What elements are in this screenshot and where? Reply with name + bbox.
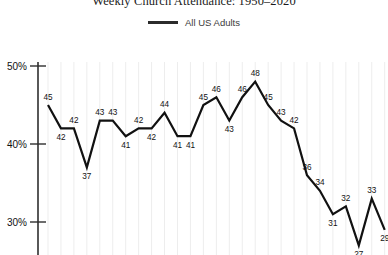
data-point-label: 36	[302, 163, 312, 172]
data-point-label: 45	[43, 93, 53, 102]
data-point-label: 32	[341, 194, 351, 203]
data-point-label: 43	[225, 125, 235, 134]
data-point-label: 34	[315, 178, 325, 187]
data-point-label: 45	[199, 93, 209, 102]
data-point-label: 29	[380, 234, 388, 243]
data-point-label: 43	[108, 108, 118, 117]
data-point-label: 31	[328, 219, 338, 228]
data-point-label: 41	[173, 141, 183, 150]
data-point-label: 42	[147, 133, 157, 142]
y-axis-tick-label: 40%	[7, 139, 27, 150]
data-point-label: 43	[277, 108, 287, 117]
data-point-label: 27	[354, 250, 364, 255]
data-point-label: 42	[289, 116, 299, 125]
data-point-label: 42	[134, 116, 144, 125]
data-point-label: 43	[95, 108, 105, 117]
data-point-label: 46	[238, 85, 248, 94]
data-point-label: 44	[160, 100, 170, 109]
chart-container: Weekly Church Attendance: 1950–2020 All …	[0, 0, 388, 255]
data-point-label: 41	[186, 141, 196, 150]
data-point-label: 42	[69, 116, 79, 125]
data-point-label: 48	[251, 69, 261, 78]
y-axis-ticks: 50%40%30%	[7, 61, 46, 228]
data-point-label: 42	[56, 133, 66, 142]
data-point-label: 41	[121, 141, 131, 150]
data-point-label: 33	[367, 186, 377, 195]
data-point-label: 46	[212, 85, 222, 94]
y-axis-tick-label: 30%	[7, 217, 27, 228]
data-point-label: 45	[264, 93, 274, 102]
data-point-label: 37	[82, 172, 92, 181]
chart-plot-area: 50%40%30% 454242374343414242444141454643…	[0, 0, 388, 255]
y-axis-tick-label: 50%	[7, 61, 27, 72]
